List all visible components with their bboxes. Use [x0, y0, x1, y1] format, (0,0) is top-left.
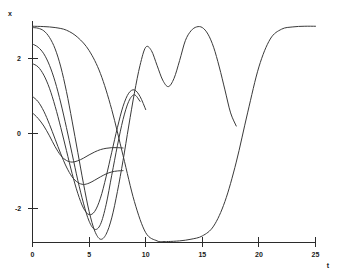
- x-tick-label-0: 0: [31, 251, 35, 258]
- curve-series-3: [33, 44, 141, 230]
- x-tick-label-10: 10: [142, 251, 150, 258]
- data-curves: [33, 26, 316, 242]
- y-tick-label-0: 0: [17, 130, 21, 137]
- y-tick-label-neg2: -2: [15, 205, 21, 212]
- y-tick-label-2: 2: [17, 55, 21, 62]
- x-axis-title: t: [327, 262, 330, 269]
- chart-page: x 2 0 -2 0 5 10 15 20 25 t: [0, 0, 337, 274]
- curve-series-2: [33, 64, 146, 215]
- curve-series-1: [33, 96, 124, 184]
- x-tick-label-20: 20: [255, 251, 263, 258]
- y-axis-title: x: [8, 10, 12, 17]
- x-tick-label-15: 15: [198, 251, 206, 258]
- curve-series-4: [33, 27, 237, 240]
- line-chart: x 2 0 -2 0 5 10 15 20 25 t: [0, 0, 337, 274]
- x-tick-label-5: 5: [87, 251, 91, 258]
- x-tick-label-25: 25: [312, 251, 320, 258]
